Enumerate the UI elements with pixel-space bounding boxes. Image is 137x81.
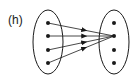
arrowhead-1 [81, 30, 84, 31]
domain-set [33, 10, 63, 74]
codomain-element-1 [112, 21, 116, 25]
codomain-set [99, 10, 129, 74]
arrowhead-4 [81, 48, 84, 49]
codomain-element-3 [112, 48, 116, 52]
arrowhead-3 [81, 42, 84, 43]
codomain-element-4 [112, 61, 116, 65]
mapping-arrows [48, 23, 114, 63]
mapping-diagram [0, 0, 137, 81]
